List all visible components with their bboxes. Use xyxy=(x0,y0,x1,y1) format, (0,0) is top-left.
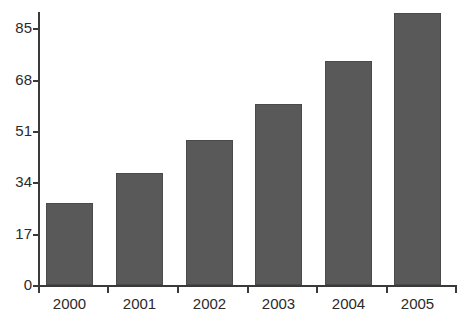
y-axis-tick xyxy=(33,80,40,82)
y-axis-tick xyxy=(33,234,40,236)
x-axis-tick xyxy=(38,285,40,293)
x-axis-label-2001: 2001 xyxy=(109,296,170,311)
bar-chart: 0 17 34 51 68 85 xyxy=(0,0,463,322)
bar-2005 xyxy=(394,13,441,285)
x-axis-label-2003: 2003 xyxy=(248,296,309,311)
bar-2003 xyxy=(255,104,302,285)
x-axis-tick xyxy=(455,285,457,293)
y-axis-tick-label: 34 xyxy=(4,174,32,189)
y-axis-tick-label-wrap: 51 xyxy=(0,123,32,139)
x-axis-tick xyxy=(316,285,318,293)
y-axis-tick-label-wrap: 0 xyxy=(0,277,32,293)
y-axis-tick-label-wrap: 85 xyxy=(0,20,32,36)
x-axis-label-2000: 2000 xyxy=(39,296,100,311)
y-axis-tick-label-wrap: 17 xyxy=(0,226,32,242)
bar-2004 xyxy=(325,61,372,285)
y-axis-tick-label: 68 xyxy=(4,72,32,87)
bar-2000 xyxy=(46,203,93,285)
bar-2001 xyxy=(116,173,163,285)
y-axis-tick xyxy=(33,182,40,184)
plot-area: 0 17 34 51 68 85 xyxy=(0,0,463,322)
x-axis-tick xyxy=(386,285,388,293)
x-axis-tick xyxy=(247,285,249,293)
y-axis-tick-label: 0 xyxy=(4,277,32,292)
y-axis-tick-label: 51 xyxy=(4,123,32,138)
y-axis-tick-label-wrap: 68 xyxy=(0,72,32,88)
x-axis-label-2002: 2002 xyxy=(179,296,240,311)
y-axis-tick-label: 85 xyxy=(4,20,32,35)
y-axis-tick xyxy=(33,131,40,133)
bar-2002 xyxy=(186,140,233,285)
y-axis-tick xyxy=(33,28,40,30)
y-axis-tick-label: 17 xyxy=(4,226,32,241)
x-axis-label-2004: 2004 xyxy=(318,296,379,311)
x-axis-tick xyxy=(177,285,179,293)
x-axis-tick xyxy=(107,285,109,293)
y-axis-tick-label-wrap: 34 xyxy=(0,174,32,190)
x-axis-label-2005: 2005 xyxy=(387,296,448,311)
y-axis-line xyxy=(38,12,40,287)
